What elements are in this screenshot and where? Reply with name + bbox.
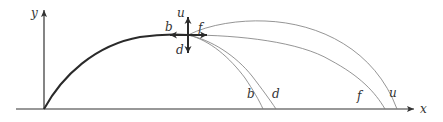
landing-label-back: b — [247, 87, 255, 101]
trajectory-down — [188, 35, 276, 109]
y-axis-label: y — [30, 6, 38, 20]
label-up: u — [177, 6, 185, 20]
label-back: b — [165, 20, 173, 34]
trajectory-main — [44, 34, 188, 109]
x-axis-label: x — [420, 102, 427, 116]
label-down: d — [176, 43, 184, 57]
landing-label-down: d — [272, 87, 280, 101]
landing-label-forward: f — [356, 89, 364, 103]
landing-label-up: u — [389, 86, 397, 100]
trajectory-diagram: x y u b f d b d f u — [0, 0, 443, 122]
label-forward: f — [197, 21, 205, 35]
trajectory-up — [188, 21, 397, 109]
